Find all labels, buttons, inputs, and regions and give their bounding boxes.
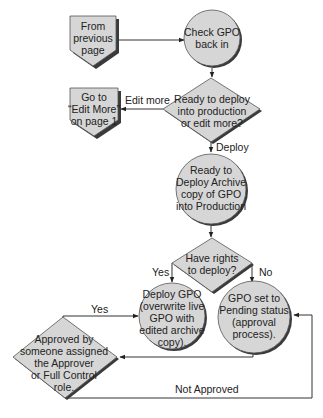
node-text-line: or edit more? xyxy=(181,117,243,129)
node-text-line: Have rights xyxy=(185,252,238,264)
node-text-line: page xyxy=(81,44,105,56)
node-text-line: to deploy? xyxy=(188,264,237,276)
label-not-approved: Not Approved xyxy=(175,383,239,395)
process-check-gpo-back-in: Check GPO back in xyxy=(184,10,242,68)
node-text-line: or Full Control xyxy=(31,369,97,381)
node-text-line: (approval xyxy=(232,316,276,328)
node-text-line: Ready to deploy xyxy=(174,93,251,105)
label-edit-more: Edit more xyxy=(125,94,170,106)
label-rights-no: No xyxy=(259,266,273,278)
node-text-line: Ready to xyxy=(190,164,232,176)
node-text-line: GPO with xyxy=(150,312,195,324)
node-text-line: someone assigned xyxy=(20,345,108,357)
node-text-line: Deploy GPO xyxy=(143,288,202,300)
node-text-line: back in xyxy=(195,38,228,50)
node-text-line: process). xyxy=(232,328,275,340)
decision-ready-to-deploy: Ready to deploy into production or edit … xyxy=(163,78,262,144)
node-text-line: Approved by xyxy=(35,333,95,345)
node-text-line: previous xyxy=(73,32,113,44)
label-rights-yes: Yes xyxy=(152,266,169,278)
node-text-line: copy). xyxy=(158,336,187,348)
offpage-from-previous-page: From previous page xyxy=(70,16,119,69)
node-text-line: into production xyxy=(178,105,247,117)
node-text-line: Go to xyxy=(81,91,107,103)
process-ready-to-deploy-archive: Ready to Deploy Archive copy of GPO into… xyxy=(176,154,248,226)
edge-pending-to-approved-decision xyxy=(120,353,253,357)
node-text-line: Pending status xyxy=(219,304,288,316)
node-text-line: “Edit More” xyxy=(68,103,120,115)
node-text-line: copy of GPO xyxy=(181,188,241,200)
node-text-line: GPO set to xyxy=(228,292,280,304)
node-text-line: Check GPO xyxy=(184,26,240,38)
decision-approved: Approved by someone assigned the Approve… xyxy=(13,317,119,400)
node-text-line: Deploy Archive xyxy=(176,176,246,188)
label-approved-yes: Yes xyxy=(91,303,108,315)
node-text-line: on page 1 xyxy=(71,115,118,127)
edge-approved-yes xyxy=(63,316,138,318)
flowchart-canvas: From previous page Go to “Edit More” on … xyxy=(0,0,323,418)
process-deploy-gpo: Deploy GPO (overwrite live GPO with edit… xyxy=(139,283,207,351)
node-text-line: the Approver xyxy=(34,357,94,369)
node-text-line: From xyxy=(81,20,106,32)
node-text-line: into Production xyxy=(176,200,246,212)
node-text-line: role. xyxy=(54,381,74,393)
node-text-line: (overwrite live xyxy=(140,300,205,312)
offpage-go-to-edit-more: Go to “Edit More” on page 1 xyxy=(68,88,121,139)
process-pending-status: GPO set to Pending status (approval proc… xyxy=(218,281,292,355)
node-text-line: edited archive xyxy=(139,324,205,336)
label-deploy: Deploy xyxy=(216,141,249,153)
